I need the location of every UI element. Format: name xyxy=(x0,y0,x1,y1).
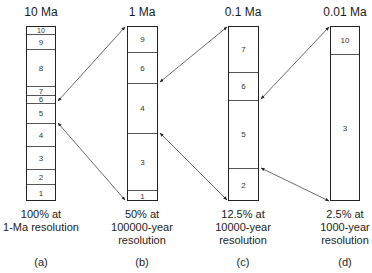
column-d-caption: 2.5% at 1000-year resolution xyxy=(300,208,372,247)
caption-line: 2.5% at xyxy=(300,208,372,221)
column-b-caption: 50% at 100000-year resolution xyxy=(97,208,187,247)
arrow-c5-to-d-top xyxy=(261,27,329,99)
panel-label-c: (c) xyxy=(223,256,263,268)
arrow-c2-to-d-bottom xyxy=(261,168,329,201)
panel-label-b: (b) xyxy=(122,256,162,268)
arrow-a4-to-b-bottom xyxy=(58,123,125,200)
panel-label-d: (d) xyxy=(325,256,365,268)
caption-line: 12.5% at xyxy=(198,208,288,221)
caption-line: resolution xyxy=(300,234,372,247)
caption-line: 100000-year xyxy=(97,221,187,234)
column-a-caption: 100% at 1-Ma resolution xyxy=(0,208,86,234)
caption-line: 1000-year xyxy=(300,221,372,234)
column-c-caption: 12.5% at 10000-year resolution xyxy=(198,208,288,247)
arrow-b4-to-c-top xyxy=(160,27,227,82)
caption-line: 50% at xyxy=(97,208,187,221)
caption-line: 1-Ma resolution xyxy=(0,221,86,234)
arrow-b1-to-c-bottom xyxy=(160,133,227,200)
caption-line: 10000-year xyxy=(198,221,288,234)
caption-line: resolution xyxy=(97,234,187,247)
arrow-a6-to-b-top xyxy=(58,27,125,101)
caption-line: 100% at xyxy=(0,208,86,221)
panel-label-a: (a) xyxy=(21,256,61,268)
caption-line: resolution xyxy=(198,234,288,247)
